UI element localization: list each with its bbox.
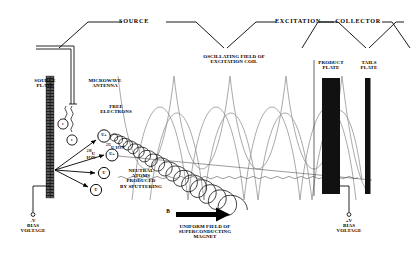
ion-word-235: ION bbox=[114, 145, 124, 150]
tails-plate bbox=[365, 78, 371, 194]
section-bracket-collector-frame bbox=[302, 22, 410, 48]
magnetic-field-symbol-label: B bbox=[163, 209, 173, 215]
source-plate bbox=[46, 76, 54, 198]
sputtering-arrows bbox=[55, 140, 104, 187]
neutral-atoms-label: NEUTRAL ATOMS PRODUCED BY SPUTTERING bbox=[110, 168, 172, 189]
section-label-collector: COLLECTOR bbox=[330, 18, 386, 24]
source-plate-label: SOURCE PLATE bbox=[22, 78, 68, 88]
microwave-antenna-label: MICROWAVE ANTENNA bbox=[78, 78, 132, 88]
electron-glyph-upper: e bbox=[58, 122, 68, 126]
isotope-label-238u: 238UION bbox=[76, 150, 106, 161]
section-label-excitation: EXCITATION bbox=[264, 18, 332, 24]
oscillating-field-label: OSCILLATING FIELD OF EXCITATION COIL bbox=[176, 54, 292, 64]
microwave-waveguide bbox=[36, 46, 77, 104]
section-bracket-excitation bbox=[227, 22, 366, 48]
diagram-vector-layer bbox=[0, 0, 414, 253]
ion-word-238: ION bbox=[87, 155, 96, 160]
product-plate bbox=[322, 78, 340, 194]
free-electrons-label: FREE ELECTRONS bbox=[92, 104, 140, 114]
electron-glyph-lower: e bbox=[67, 138, 77, 142]
bias-voltage-right-label: +V BIAS VOLTAGE bbox=[322, 218, 376, 234]
ion-glyph-235u: U+ bbox=[98, 133, 110, 137]
tails-plate-label: TAILS PLATE bbox=[350, 60, 388, 70]
bias-lead-right bbox=[340, 186, 351, 216]
section-label-source: SOURCE bbox=[104, 18, 164, 24]
neutral-glyph-lower: U bbox=[91, 188, 101, 192]
diagram-canvas: SOURCE EXCITATION COLLECTOR SOURCE PLATE… bbox=[0, 0, 414, 253]
magnetic-field-arrow bbox=[176, 208, 230, 222]
ion-glyph-238u: U+ bbox=[106, 152, 118, 156]
section-bracket-source bbox=[59, 22, 224, 48]
bias-voltage-left-label: -V BIAS VOLTAGE bbox=[6, 218, 60, 234]
isotope-label-235u: 235U ION bbox=[106, 144, 152, 150]
section-bracket-collector bbox=[369, 22, 404, 48]
neutral-glyph-upper: U bbox=[99, 171, 109, 175]
uniform-field-label: UNIFORM FIELD OF SUPERCONDUCTING MAGNET bbox=[158, 224, 252, 240]
